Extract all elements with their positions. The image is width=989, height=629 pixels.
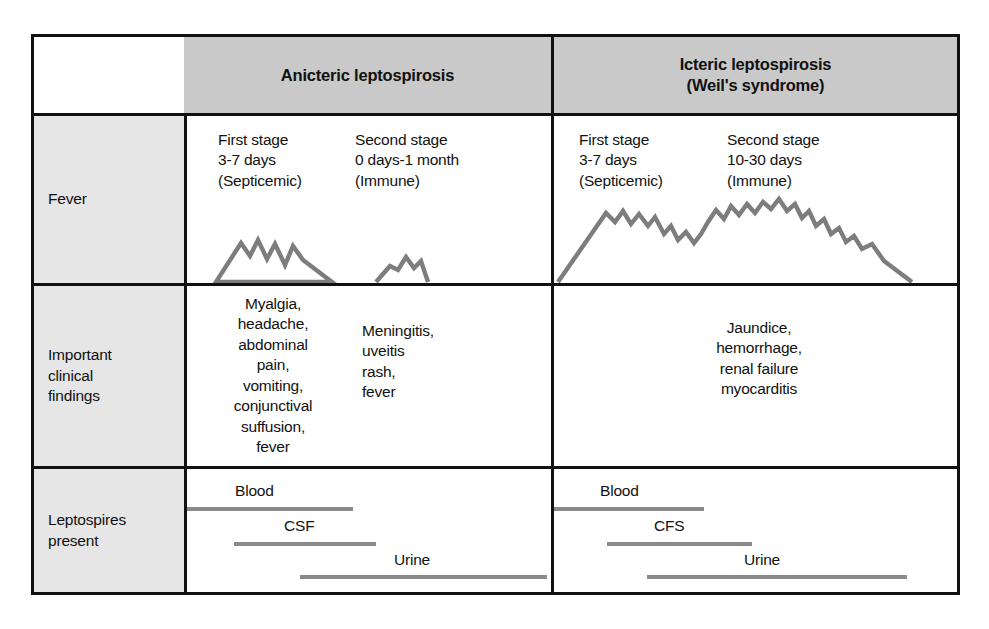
- lepto-bar-cfs-icteric: [607, 542, 752, 546]
- lepto-bar-urine-icteric: [647, 575, 907, 579]
- lepto-label-urine-icteric: Urine: [744, 550, 780, 570]
- lepto-bar-urine-anicteric: [300, 575, 547, 579]
- leptospires-cell-anicteric: Blood CSF Urine: [187, 469, 551, 592]
- lepto-label-blood-anicteric: Blood: [235, 481, 274, 501]
- divider-findings-leptospires: [34, 466, 957, 469]
- lepto-label-cfs-icteric: CFS: [654, 516, 684, 536]
- comparison-table: Anicteric leptospirosis Icteric leptospi…: [31, 34, 960, 595]
- divider-header-bottom: [34, 113, 957, 116]
- header-anicteric-leptospirosis: Anicteric leptospirosis: [184, 37, 551, 113]
- fever-cell-anicteric: First stage 3-7 days (Septicemic) Second…: [187, 116, 551, 283]
- fever-curve-icteric: [554, 116, 957, 283]
- lepto-bar-blood-anicteric: [187, 507, 353, 511]
- lepto-bar-blood-icteric: [554, 507, 704, 511]
- header-icteric-leptospirosis: Icteric leptospirosis (Weil's syndrome): [554, 37, 957, 113]
- lepto-bar-csf-anicteric: [234, 542, 376, 546]
- leptospires-cell-icteric: Blood CFS Urine: [554, 469, 957, 592]
- clinical-findings-cell-anicteric: Myalgia, headache, abdominal pain, vomit…: [187, 286, 551, 466]
- lepto-label-urine-anicteric: Urine: [394, 550, 430, 570]
- divider-main-panels: [551, 37, 554, 592]
- divider-fever-findings: [34, 283, 957, 286]
- anicteric-second-stage-findings: Meningitis, uveitis rash, fever: [362, 321, 512, 403]
- row-label-fever: Fever: [34, 116, 184, 283]
- header-corner-blank: [34, 37, 184, 113]
- lepto-label-csf-anicteric: CSF: [284, 516, 314, 536]
- fever-curve-anicteric: [187, 116, 551, 283]
- lepto-label-blood-icteric: Blood: [600, 481, 639, 501]
- icteric-findings: Jaundice, hemorrhage, renal failure myoc…: [614, 318, 904, 400]
- row-label-important-clinical-findings: Important clinical findings: [34, 286, 184, 466]
- fever-cell-icteric: First stage 3-7 days (Septicemic) Second…: [554, 116, 957, 283]
- divider-rowlabel-column: [184, 113, 187, 592]
- row-label-leptospires-present: Leptospires present: [34, 469, 184, 592]
- figure-canvas: Anicteric leptospirosis Icteric leptospi…: [0, 0, 989, 629]
- clinical-findings-cell-icteric: Jaundice, hemorrhage, renal failure myoc…: [554, 286, 957, 466]
- anicteric-first-stage-findings: Myalgia, headache, abdominal pain, vomit…: [193, 294, 353, 458]
